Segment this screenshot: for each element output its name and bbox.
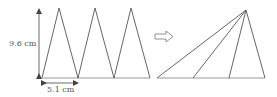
left-figure: 9.6 cm 5.1 cm — [9, 8, 150, 94]
right-hollow-arrow-icon — [155, 31, 173, 42]
shear-line-4 — [246, 10, 265, 78]
zigzag-triangles — [42, 8, 150, 78]
base-label: 5.1 cm — [47, 85, 75, 94]
right-figure — [157, 10, 265, 78]
diagram-canvas: 9.6 cm 5.1 cm — [0, 0, 277, 97]
height-label: 9.6 cm — [9, 39, 37, 48]
